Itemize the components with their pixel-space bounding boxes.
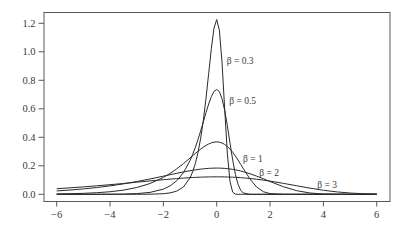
curve-label: β = 3 bbox=[317, 180, 337, 190]
curve-label: β = 2 bbox=[259, 168, 279, 178]
y-axis: 0.00.20.40.60.81.01.2 bbox=[22, 18, 44, 200]
y-tick-label: 0.8 bbox=[22, 75, 35, 86]
x-tick-label: 2 bbox=[267, 209, 272, 220]
x-tick-label: −2 bbox=[158, 209, 169, 220]
x-tick-label: −6 bbox=[51, 209, 62, 220]
y-tick-label: 1.2 bbox=[22, 18, 35, 29]
y-tick-label: 0.4 bbox=[22, 132, 36, 143]
y-tick-label: 0.2 bbox=[22, 160, 35, 171]
curve-label: β = 0.5 bbox=[229, 96, 256, 106]
chart: 0.00.20.40.60.81.01.2 −6−4−20246 β = 0.3… bbox=[0, 0, 408, 230]
curve-label: β = 0.3 bbox=[227, 56, 254, 66]
x-tick-label: 0 bbox=[214, 209, 219, 220]
curves bbox=[57, 20, 377, 195]
plot-frame bbox=[44, 13, 390, 202]
x-tick-label: 6 bbox=[374, 209, 379, 220]
y-tick-label: 0.6 bbox=[22, 103, 35, 114]
y-tick-label: 0.0 bbox=[22, 189, 35, 200]
x-tick-label: −4 bbox=[104, 209, 116, 220]
x-axis: −6−4−20246 bbox=[51, 202, 379, 221]
curve-label: β = 1 bbox=[243, 154, 263, 164]
x-tick-label: 4 bbox=[321, 209, 327, 220]
curve-labels: β = 0.3β = 0.5β = 1β = 2β = 3 bbox=[227, 56, 337, 190]
y-tick-label: 1.0 bbox=[22, 46, 35, 57]
